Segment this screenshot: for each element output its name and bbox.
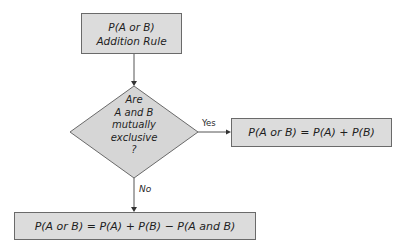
start-box: P(A or B) Addition Rule <box>81 13 182 54</box>
no-formula: P(A or B) = P(A) + P(B) − P(A and B) <box>35 220 236 233</box>
decision-line: mutually <box>94 119 174 132</box>
decision-line: ? <box>94 144 174 157</box>
start-subtitle: Addition Rule <box>96 34 166 48</box>
decision-line: exclusive <box>94 132 174 145</box>
decision-line: A and B <box>94 107 174 120</box>
decision-line: Are <box>94 94 174 107</box>
decision-question: Are A and B mutually exclusive ? <box>94 94 174 157</box>
yes-label: Yes <box>202 118 216 128</box>
start-title: P(A or B) <box>108 20 154 34</box>
yes-formula: P(A or B) = P(A) + P(B) <box>248 126 374 139</box>
no-label: No <box>139 184 151 194</box>
arrowhead-down-icon <box>131 81 137 86</box>
mutually-exclusive-formula-box: P(A or B) = P(A) + P(B) <box>231 118 392 147</box>
general-addition-formula-box: P(A or B) = P(A) + P(B) − P(A and B) <box>14 212 256 240</box>
